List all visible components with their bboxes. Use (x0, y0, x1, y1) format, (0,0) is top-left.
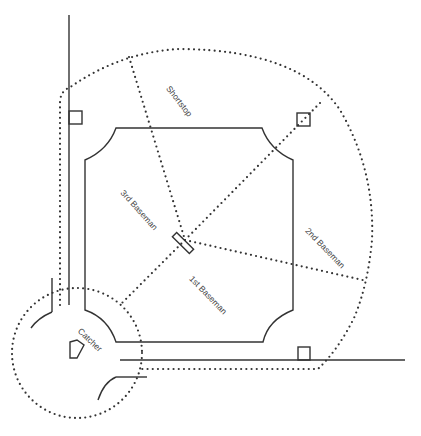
home-plate (70, 340, 84, 358)
home-arc-lower-right (98, 377, 116, 400)
first-baseman-coverage-line (122, 240, 185, 303)
third-baseman-label: 3rd Baseman (119, 188, 160, 232)
shortstop-label: Shortstop (164, 84, 194, 119)
second-base (297, 113, 310, 126)
catcher-coverage-circle (12, 288, 142, 418)
baseball-field-diagram: Shortstop 3rd Baseman 1st Baseman 2nd Ba… (0, 0, 421, 436)
catcher-label: Catcher (76, 326, 104, 354)
second-baseman-label: 2nd Baseman (303, 226, 347, 271)
home-arc-upper-left (31, 312, 52, 328)
infield-boundary (85, 128, 293, 342)
first-baseman-label: 1st Baseman (187, 274, 229, 317)
third-base (69, 111, 82, 124)
outfield-coverage-arc (60, 49, 372, 369)
first-base (298, 347, 310, 360)
second-base-diagonal-line (185, 103, 320, 240)
